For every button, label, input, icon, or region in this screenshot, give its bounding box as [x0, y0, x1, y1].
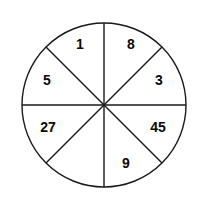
- circle-sector-svg: [0, 0, 200, 202]
- sector-label-top-right: 8: [127, 37, 135, 51]
- sector-label-left-upper: 5: [43, 73, 51, 87]
- sector-label-right-lower: 45: [150, 120, 166, 134]
- sector-label-bottom-right: 9: [122, 156, 130, 170]
- sector-label-left-lower: 27: [40, 120, 56, 134]
- circle-sector-diagram: 1 8 3 45 9 27 5: [0, 0, 200, 202]
- sector-label-top-left: 1: [76, 37, 84, 51]
- sector-label-right-upper: 3: [155, 73, 163, 87]
